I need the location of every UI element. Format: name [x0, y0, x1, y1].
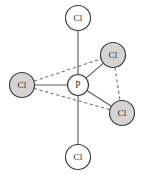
- atom-label: Cl: [74, 13, 83, 23]
- atom-node: Cl: [66, 145, 91, 170]
- atom-label: Cl: [18, 80, 27, 90]
- molecule-diagram: PClClClClCl: [0, 0, 147, 175]
- atom-label: Cl: [74, 152, 83, 162]
- atom-label: Cl: [109, 50, 118, 60]
- atom-node: Cl: [10, 73, 35, 98]
- molecule-canvas: PClClClClCl: [0, 0, 147, 175]
- atom-node: Cl: [101, 43, 126, 68]
- guide-line-dashed: [115, 68, 120, 101]
- bond-line-solid: [86, 63, 103, 78]
- atom-node: Cl: [110, 101, 135, 126]
- atom-label: Cl: [118, 108, 127, 118]
- atom-label: P: [75, 80, 80, 90]
- atom-layer: PClClClClCl: [10, 6, 135, 170]
- guide-line-dashed: [34, 59, 100, 81]
- atom-node: Cl: [66, 6, 91, 31]
- atom-node: P: [68, 75, 89, 96]
